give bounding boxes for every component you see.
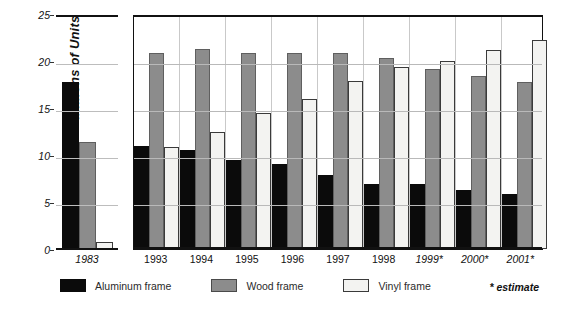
- y-axis-tick-20: 20: [28, 56, 50, 68]
- bar-vinyl-1997: [348, 81, 363, 249]
- x-axis-label-1993: 1993: [133, 253, 179, 265]
- legend-swatch-wood: [211, 279, 237, 292]
- x-axis-label-1995: 1995: [224, 253, 270, 265]
- x-axis-label-1998: 1998: [361, 253, 407, 265]
- figure-caption: [40, 311, 520, 316]
- gridline-10: [134, 158, 542, 159]
- x-axis-label-2000-est: 2000*: [452, 253, 498, 265]
- bar-groups-1983: [56, 17, 118, 250]
- y-axis-tick-25: 25: [28, 9, 50, 21]
- x-axis-label-1994: 1994: [179, 253, 225, 265]
- bar-wood-1999-est: [425, 69, 440, 249]
- y-axis-tick-15: 15: [28, 103, 50, 115]
- y-axis-tick-mark-0: [50, 250, 54, 251]
- chart-panel-1983: [56, 15, 118, 250]
- bar-wood-2000-est: [471, 76, 486, 249]
- x-axis-label-1997: 1997: [315, 253, 361, 265]
- bar-alum-1983: [62, 82, 79, 250]
- bar-group-1983: [56, 17, 118, 250]
- y-axis-tick-0: 0: [28, 244, 50, 256]
- gridline-20: [56, 64, 118, 65]
- legend-item-wood: Wood frame: [211, 279, 303, 292]
- y-axis-tick-5: 5: [28, 197, 50, 209]
- bar-alum-1999-est: [410, 184, 425, 249]
- bar-vinyl-1994: [210, 132, 225, 249]
- y-axis-tick-mark-10: [50, 156, 54, 157]
- x-axis-label-1996: 1996: [270, 253, 316, 265]
- x-axis-line-1983: [56, 248, 118, 250]
- bar-alum-2001-est: [502, 194, 517, 249]
- bar-alum-1997: [318, 175, 333, 249]
- bar-group-1997: [317, 17, 363, 249]
- bar-wood-1993: [149, 53, 164, 249]
- chart-legend: Aluminum frameWood frameVinyl frame: [60, 279, 520, 292]
- y-axis-tick-10: 10: [28, 150, 50, 162]
- legend-swatch-vinyl: [343, 279, 369, 292]
- bar-groups-recent-years: [134, 17, 542, 249]
- plot-area-recent-years: [134, 17, 542, 249]
- y-axis-tick-mark-5: [50, 203, 54, 204]
- x-axis-label-1999-est: 1999*: [406, 253, 452, 265]
- y-axis-tick-mark-15: [50, 109, 54, 110]
- gridline-15: [134, 111, 542, 112]
- bar-alum-1998: [364, 184, 379, 249]
- bar-vinyl-1996: [302, 99, 317, 249]
- bar-vinyl-2000-est: [486, 50, 501, 249]
- legend-swatch-alum: [60, 279, 86, 292]
- bar-group-1998: [363, 17, 409, 249]
- gridline-5: [56, 205, 118, 206]
- bar-wood-1998: [379, 58, 394, 249]
- bar-group-2000-est: [455, 17, 501, 249]
- plot-area-1983: [56, 17, 118, 250]
- bar-alum-1996: [272, 164, 287, 249]
- y-axis-tick-mark-25: [50, 15, 54, 16]
- bar-alum-2000-est: [456, 190, 471, 249]
- chart-panel-recent-years: [133, 15, 543, 250]
- legend-label-wood: Wood frame: [246, 280, 303, 292]
- bar-wood-1994: [195, 49, 210, 249]
- y-axis-tick-labels: 0510152025: [28, 10, 54, 255]
- bar-alum-1994: [180, 150, 195, 249]
- x-axis-label-row: 1993199419951996199719981999*2000*2001*: [133, 253, 543, 265]
- legend-item-vinyl: Vinyl frame: [343, 279, 430, 292]
- y-axis-tick-mark-20: [50, 62, 54, 63]
- legend-item-alum: Aluminum frame: [60, 279, 171, 292]
- estimate-footnote: * estimate: [489, 281, 539, 293]
- bar-wood-2001-est: [517, 82, 532, 249]
- bar-vinyl-1995: [256, 113, 271, 249]
- bar-group-1994: [179, 17, 225, 249]
- x-axis-line-recent-years: [134, 247, 542, 249]
- x-axis-label-2001-est: 2001*: [498, 253, 544, 265]
- legend-label-alum: Aluminum frame: [95, 280, 171, 292]
- bar-alum-1993: [134, 146, 149, 249]
- bar-vinyl-2001-est: [532, 40, 547, 249]
- bar-wood-1995: [241, 53, 256, 249]
- bar-vinyl-1993: [164, 147, 179, 249]
- legend-label-vinyl: Vinyl frame: [378, 280, 430, 292]
- bar-wood-1996: [287, 53, 302, 249]
- x-axis-label-1983: 1983: [56, 253, 118, 265]
- bar-group-1996: [271, 17, 317, 249]
- gridline-10: [56, 158, 118, 159]
- bar-group-2001-est: [501, 17, 547, 249]
- gridline-5: [134, 205, 542, 206]
- gridline-20: [134, 64, 542, 65]
- bar-vinyl-1999-est: [440, 61, 455, 249]
- bar-wood-1997: [333, 53, 348, 249]
- bar-group-1995: [225, 17, 271, 249]
- bar-group-1993: [134, 17, 179, 249]
- bar-group-1999-est: [409, 17, 455, 249]
- gridline-15: [56, 111, 118, 112]
